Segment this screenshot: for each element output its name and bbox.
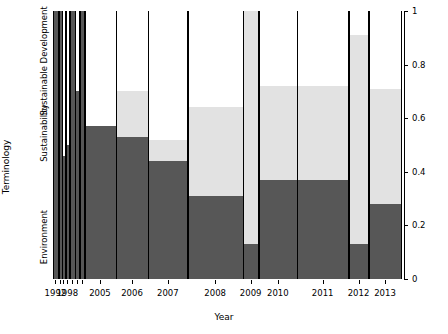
x-tick bbox=[55, 280, 56, 284]
bar-separator bbox=[243, 11, 244, 279]
bar-separator bbox=[259, 11, 260, 279]
x-axis-line bbox=[53, 282, 401, 283]
bar-segment-sustainability bbox=[349, 35, 368, 244]
y-tick bbox=[404, 225, 408, 226]
y-tick-label: 1 bbox=[412, 7, 417, 16]
y-tick bbox=[404, 172, 408, 173]
x-tick-label: 2009 bbox=[240, 289, 262, 298]
x-tick bbox=[215, 280, 216, 284]
y-tick bbox=[404, 11, 408, 12]
bar-segment-environment bbox=[369, 204, 401, 279]
y-tick bbox=[404, 279, 408, 280]
bar-separator bbox=[70, 11, 71, 279]
bar-segment-sustainability bbox=[116, 91, 147, 137]
bar-segment-environment bbox=[148, 161, 187, 279]
spine-bar bbox=[188, 11, 243, 279]
plot-area bbox=[53, 11, 401, 279]
bar-segment-sustainable-development bbox=[85, 11, 116, 126]
x-tick-label: 2011 bbox=[312, 289, 334, 298]
bar-segment-sustainable-development bbox=[116, 11, 147, 91]
x-tick-label: 2010 bbox=[267, 289, 289, 298]
x-tick-minor bbox=[63, 280, 64, 284]
spine-bar bbox=[148, 11, 187, 279]
bar-separator bbox=[66, 11, 67, 279]
x-tick-label: 2012 bbox=[348, 289, 370, 298]
x-axis-title: Year bbox=[0, 312, 448, 322]
x-tick-label: 2008 bbox=[204, 289, 226, 298]
x-tick bbox=[168, 280, 169, 284]
spine-bar bbox=[85, 11, 116, 279]
x-tick bbox=[67, 280, 68, 284]
x-tick bbox=[100, 280, 101, 284]
bar-segment-sustainability bbox=[259, 86, 297, 180]
bar-separator bbox=[369, 11, 370, 279]
bar-segment-sustainability bbox=[369, 89, 401, 204]
x-tick bbox=[359, 280, 360, 284]
bar-segment-sustainable-development bbox=[349, 11, 368, 35]
bar-segment-sustainability bbox=[148, 140, 187, 161]
x-tick-minor bbox=[82, 280, 83, 284]
category-label: Environment bbox=[39, 210, 49, 264]
y-tick-label: 0.2 bbox=[412, 221, 426, 230]
spine-bar bbox=[243, 11, 258, 279]
bar-segment-sustainable-development bbox=[297, 11, 348, 86]
y-tick bbox=[404, 65, 408, 66]
spine-bar bbox=[116, 11, 147, 279]
spine-bar bbox=[259, 11, 297, 279]
bar-segment-environment bbox=[116, 137, 147, 279]
spine-bar bbox=[369, 11, 401, 279]
x-tick-minor bbox=[72, 280, 73, 284]
bar-separator bbox=[297, 11, 298, 279]
x-tick-label: 2013 bbox=[374, 289, 396, 298]
bar-separator bbox=[85, 11, 86, 279]
chart-root: 1992199820052006200720082009201020112012… bbox=[0, 0, 448, 334]
bar-separator bbox=[148, 11, 149, 279]
category-label: Sustainable Development bbox=[39, 6, 49, 116]
bar-segment-environment bbox=[243, 244, 258, 279]
bar-segment-sustainable-development bbox=[148, 11, 187, 140]
x-tick-minor bbox=[77, 280, 78, 284]
bar-segment-environment bbox=[349, 244, 368, 279]
y-tick-label: 0 bbox=[412, 275, 417, 284]
x-tick-label: 2005 bbox=[89, 289, 111, 298]
spine-bar bbox=[349, 11, 368, 279]
x-tick bbox=[323, 280, 324, 284]
y-axis-title: Terminology bbox=[1, 140, 11, 195]
x-tick-label: 2007 bbox=[157, 289, 179, 298]
bar-segment-sustainable-development bbox=[369, 11, 401, 89]
spine-bar bbox=[297, 11, 348, 279]
x-tick bbox=[385, 280, 386, 284]
bar-segment-sustainability bbox=[188, 107, 243, 195]
bar-segment-environment bbox=[188, 196, 243, 279]
bar-separator bbox=[75, 11, 76, 279]
x-tick-minor bbox=[60, 280, 61, 284]
bar-separator bbox=[349, 11, 350, 279]
x-tick bbox=[132, 280, 133, 284]
bar-segment-environment bbox=[259, 180, 297, 279]
y-tick bbox=[404, 118, 408, 119]
y-tick-label: 0.6 bbox=[412, 114, 426, 123]
y-tick-label: 0.8 bbox=[412, 60, 426, 69]
bar-segment-sustainable-development bbox=[188, 11, 243, 107]
bar-separator bbox=[53, 11, 54, 279]
bar-separator bbox=[62, 11, 63, 279]
bar-separator bbox=[116, 11, 117, 279]
bar-segment-environment bbox=[85, 126, 116, 279]
bar-segment-environment bbox=[297, 180, 348, 279]
x-tick-label: 1998 bbox=[56, 289, 78, 298]
bar-segment-sustainability bbox=[297, 86, 348, 180]
bar-separator bbox=[188, 11, 189, 279]
x-tick-label: 2006 bbox=[121, 289, 143, 298]
y-axis-line bbox=[404, 11, 405, 279]
bar-segment-sustainable-development bbox=[259, 11, 297, 86]
bar-separator bbox=[80, 11, 81, 279]
x-tick bbox=[251, 280, 252, 284]
x-tick bbox=[278, 280, 279, 284]
bar-segment-sustainability bbox=[243, 11, 258, 244]
bar-separator bbox=[59, 11, 60, 279]
bar-separator bbox=[401, 11, 402, 279]
y-tick-label: 0.4 bbox=[412, 167, 426, 176]
